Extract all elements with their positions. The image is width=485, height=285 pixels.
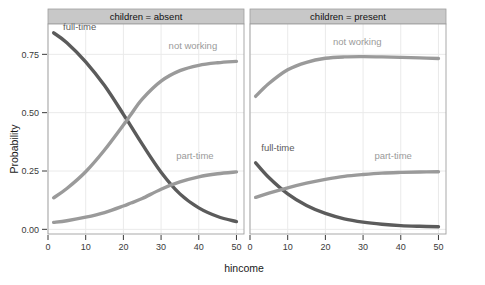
x-tick-label: 50 bbox=[433, 242, 443, 252]
x-tick-label: 0 bbox=[45, 242, 50, 252]
series-label-full-time: full-time bbox=[63, 21, 96, 32]
x-tick-label: 10 bbox=[283, 242, 293, 252]
chart-container: Probability hincome 0.000.250.500.75 chi… bbox=[0, 0, 485, 285]
x-tick-label: 40 bbox=[396, 242, 406, 252]
series-label-full-time: full-time bbox=[261, 142, 294, 153]
y-tick-label: 0.75 bbox=[21, 50, 39, 60]
x-tick-label: 10 bbox=[81, 242, 91, 252]
x-tick-label: 40 bbox=[194, 242, 204, 252]
x-axis-title: hincome bbox=[224, 262, 264, 274]
y-tick-label: 0.00 bbox=[21, 225, 39, 235]
y-tick-label: 0.25 bbox=[21, 166, 39, 176]
series-label-part-time: part-time bbox=[374, 150, 411, 161]
y-axis-title: Probability bbox=[8, 124, 20, 174]
x-tick-label: 30 bbox=[156, 242, 166, 252]
panel-strip-label: children = present bbox=[310, 11, 386, 22]
x-tick-label: 30 bbox=[358, 242, 368, 252]
panel-strip-label: children = absent bbox=[110, 11, 183, 22]
y-tick-label: 0.50 bbox=[21, 108, 39, 118]
series-label-not-working: not working bbox=[169, 40, 218, 51]
x-tick-label: 20 bbox=[118, 242, 128, 252]
series-label-part-time: part-time bbox=[176, 150, 213, 161]
panel: children = presentnot workingfull-timepa… bbox=[247, 9, 446, 252]
panel: children = absentfull-timenot workingpar… bbox=[45, 9, 244, 252]
series-label-not-working: not working bbox=[333, 36, 382, 47]
faceted-line-chart: Probability hincome 0.000.250.500.75 chi… bbox=[0, 0, 485, 285]
panel-background bbox=[48, 24, 244, 234]
x-tick-label: 50 bbox=[231, 242, 241, 252]
x-tick-label: 0 bbox=[247, 242, 252, 252]
x-tick-label: 20 bbox=[320, 242, 330, 252]
